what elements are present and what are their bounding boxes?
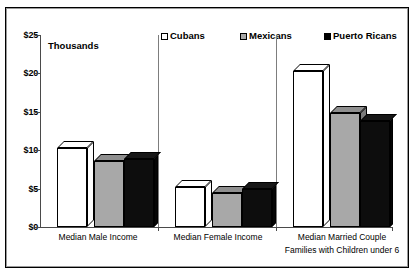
y-axis-tick-0 (35, 227, 40, 228)
bar-side-g3-cubans (323, 64, 330, 227)
y-axis-tick-10 (35, 150, 40, 151)
bar-g1-cubans[interactable] (57, 148, 87, 227)
y-tick-label-25: $25 (6, 31, 38, 40)
bar-side-g2-puerto-ricans (272, 185, 276, 227)
x-category-label-3-line2: Families with Children under 6 (266, 245, 416, 256)
bar-g2-mexicans[interactable] (212, 193, 242, 227)
bar-g1-mexicans[interactable] (94, 161, 124, 227)
bar-side-g1-cubans (87, 141, 94, 227)
chart-legend: Cubans Mexicans Puerto Ricans (0, 0, 416, 20)
y-axis-tick-15 (35, 112, 40, 113)
x-axis-tick-1 (158, 227, 159, 231)
group-separator-1 (158, 35, 159, 227)
bar-g3-mexicans[interactable] (330, 113, 360, 227)
bar-side-g2-cubans (205, 180, 212, 227)
y-tick-label-0: $0 (6, 223, 38, 232)
bar-g3-puerto-ricans[interactable] (360, 121, 390, 227)
bar-side-g3-puerto-ricans (390, 118, 393, 227)
plot-area (40, 35, 393, 227)
y-axis-tick-25 (35, 35, 40, 36)
chart-figure: Cubans Mexicans Puerto Ricans Thousands … (0, 0, 416, 276)
y-tick-label-20: $20 (6, 69, 38, 78)
y-tick-label-15: $15 (6, 108, 38, 117)
bar-g2-puerto-ricans[interactable] (242, 189, 272, 227)
bar-g2-cubans[interactable] (175, 187, 205, 227)
x-axis-tick-3 (392, 227, 393, 231)
x-category-label-2: Median Female Income (155, 232, 281, 243)
y-axis-tick-5 (35, 189, 40, 190)
x-category-label-1: Median Male Income (38, 232, 158, 243)
group-separator-2 (276, 35, 277, 227)
y-axis-line (40, 35, 41, 227)
x-axis-tick-2 (276, 227, 277, 231)
bar-g1-puerto-ricans[interactable] (124, 159, 154, 227)
y-tick-label-5: $5 (6, 185, 38, 194)
x-axis-line (40, 227, 393, 228)
bar-side-g1-puerto-ricans (154, 155, 158, 227)
y-tick-label-10: $10 (6, 146, 38, 155)
y-axis-tick-20 (35, 73, 40, 74)
x-category-label-3-line1: Median Married Couple (274, 232, 410, 243)
bar-g3-cubans[interactable] (293, 71, 323, 227)
